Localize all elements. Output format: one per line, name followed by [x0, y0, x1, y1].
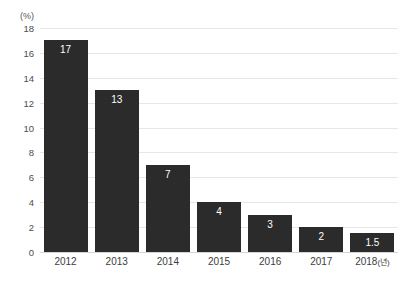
- bar[interactable]: 1.5: [350, 233, 394, 252]
- y-axis-tick-label: 16: [4, 47, 34, 58]
- bar-slot: 7: [142, 28, 193, 252]
- bar-value-label: 1.5: [350, 237, 394, 249]
- y-axis-tick-label: 8: [4, 147, 34, 158]
- x-axis-tick-label: 2013: [106, 256, 128, 267]
- bar[interactable]: 2: [299, 227, 343, 252]
- bar[interactable]: 7: [146, 165, 190, 252]
- bars-layer: 171374321.5: [40, 28, 398, 252]
- bar-value-label: 17: [44, 44, 88, 56]
- bar-slot: 13: [91, 28, 142, 252]
- y-axis-unit-label: (%): [20, 11, 34, 21]
- bar-value-label: 7: [146, 169, 190, 181]
- y-axis-tick-label: 0: [4, 247, 34, 258]
- y-axis-tick-label: 12: [4, 97, 34, 108]
- y-axis-tick-label: 14: [4, 72, 34, 83]
- bar-value-label: 3: [248, 219, 292, 231]
- bar-value-label: 2: [299, 231, 343, 243]
- axis-baseline: [40, 252, 398, 253]
- bar[interactable]: 17: [44, 40, 88, 252]
- x-axis-tick-label: 2017: [310, 256, 332, 267]
- bar-slot: 1.5: [347, 28, 398, 252]
- y-axis: 181614121086420: [0, 28, 34, 252]
- x-axis-tick-label: 2015: [208, 256, 230, 267]
- bar-value-label: 13: [95, 94, 139, 106]
- y-axis-tick-label: 4: [4, 197, 34, 208]
- bar[interactable]: 3: [248, 215, 292, 252]
- bar-chart: (%) 181614121086420 171374321.5 20122013…: [0, 0, 416, 286]
- bar-slot: 3: [245, 28, 296, 252]
- y-axis-tick-label: 6: [4, 172, 34, 183]
- bar-value-label: 4: [197, 206, 241, 218]
- bar[interactable]: 4: [197, 202, 241, 252]
- bar-slot: 4: [193, 28, 244, 252]
- x-axis: 2012201320142015201620172018(년): [40, 256, 398, 278]
- y-axis-tick-label: 10: [4, 122, 34, 133]
- bar[interactable]: 13: [95, 90, 139, 252]
- y-axis-tick-label: 18: [4, 23, 34, 34]
- bar-slot: 2: [296, 28, 347, 252]
- x-axis-tick-label: 2014: [157, 256, 179, 267]
- x-axis-tick-label: 2012: [54, 256, 76, 267]
- y-axis-tick-label: 2: [4, 222, 34, 233]
- bar-slot: 17: [40, 28, 91, 252]
- x-axis-tick-label: 2018(년): [355, 256, 390, 267]
- x-axis-tick-label: 2016: [259, 256, 281, 267]
- x-axis-unit-suffix: (년): [377, 258, 389, 267]
